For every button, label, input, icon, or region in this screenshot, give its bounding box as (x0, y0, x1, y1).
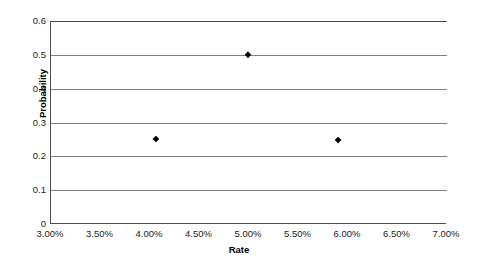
y-axis-tick-label: 0.1 (6, 185, 46, 195)
x-axis-title: Rate (0, 244, 478, 255)
gridline (51, 190, 447, 191)
x-axis-tick-label: 7.00% (416, 228, 476, 239)
gridline (51, 21, 447, 22)
y-axis-title: Probability (37, 34, 48, 154)
gridline (51, 89, 447, 90)
gridline (51, 123, 447, 124)
scatter-chart: 00.10.20.30.40.50.6 3.00%3.50%4.00%4.50%… (0, 0, 478, 267)
gridline (51, 156, 447, 157)
y-axis-tick-label: 0.6 (6, 16, 46, 26)
